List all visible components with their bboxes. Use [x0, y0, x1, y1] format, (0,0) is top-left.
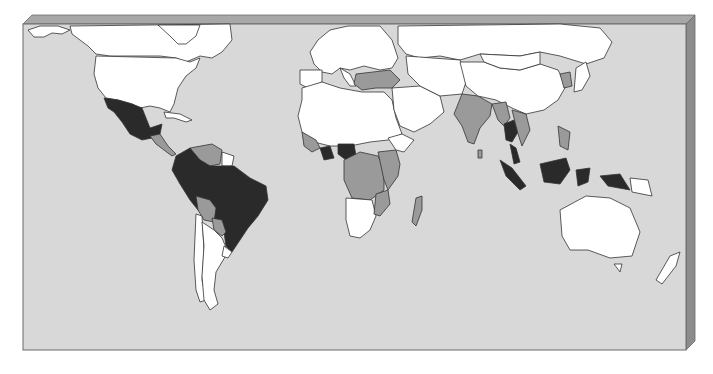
region-central-africa [344, 152, 384, 200]
region-sri-lanka [478, 150, 482, 158]
world-map [0, 0, 713, 374]
frame-side-bevel [686, 15, 695, 350]
map-canvas [0, 0, 713, 374]
frame-top-bevel [23, 15, 695, 24]
